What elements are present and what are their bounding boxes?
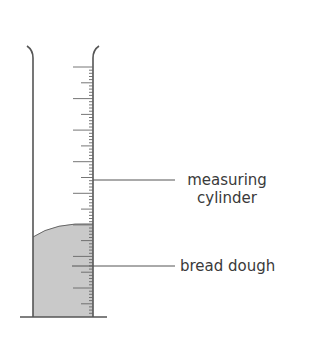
label-bread-dough: bread dough bbox=[180, 257, 275, 275]
label-measuring-cylinder-line2: cylinder bbox=[177, 189, 277, 207]
measuring-cylinder-diagram bbox=[0, 0, 321, 340]
bread-dough-fill bbox=[33, 224, 93, 317]
cylinder-right-wall bbox=[93, 46, 99, 317]
label-measuring-cylinder: measuring cylinder bbox=[177, 171, 277, 207]
cylinder-left-wall bbox=[27, 46, 33, 317]
label-measuring-cylinder-line1: measuring bbox=[177, 171, 277, 189]
